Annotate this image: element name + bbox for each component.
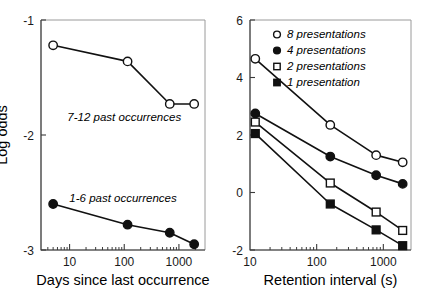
- axis-spines: [41, 20, 205, 250]
- series-3-point-2-filled-square-marker: [372, 226, 380, 234]
- legend-1-filled-circle-marker: [274, 47, 281, 54]
- left-chart-panel: -1-2-3101001000Days since last occurrenc…: [0, 0, 212, 293]
- legend-2-open-square-marker: [274, 63, 280, 69]
- series-3-point-1-filled-square-marker: [326, 200, 334, 208]
- legend-0-open-circle-marker: [274, 31, 281, 38]
- series-0-point-1-open-circle-marker: [123, 57, 131, 65]
- series-2-point-2-open-square-marker: [372, 208, 380, 216]
- legend-label-1: 4 presentations: [287, 44, 366, 56]
- y-tick-label-4: -2: [232, 244, 243, 258]
- x-axis-title: Days since last occurrence: [36, 272, 209, 288]
- plot-frame: [41, 20, 205, 250]
- x-tick-label-0: 10: [63, 255, 77, 269]
- series-3-point-3-filled-square-marker: [399, 242, 407, 250]
- x-axis-title: Retention interval (s): [264, 272, 398, 288]
- legend-label-0: 8 presentations: [287, 28, 366, 40]
- series-1: [49, 200, 198, 249]
- series-0-point-2-open-circle-marker: [372, 151, 380, 159]
- series-2: [251, 118, 406, 234]
- series-1-point-2-filled-circle-marker: [372, 171, 380, 179]
- series-0-point-1-open-circle-marker: [326, 121, 334, 129]
- series-1-point-0-filled-circle-marker: [251, 109, 259, 117]
- figure-container: -1-2-3101001000Days since last occurrenc…: [0, 0, 423, 293]
- series-1-point-0-filled-circle-marker: [49, 200, 57, 208]
- y-tick-label-2: -3: [23, 244, 34, 258]
- series-1-point-1-filled-circle-marker: [326, 152, 334, 160]
- legend-item-2: 2 presentations: [274, 60, 366, 72]
- series-3: [251, 130, 406, 250]
- series-0-point-0-open-circle-marker: [49, 41, 57, 49]
- series-2-point-0-open-square-marker: [251, 118, 259, 126]
- right-chart-panel: 6420-2101001000Retention interval (s)8 p…: [211, 0, 423, 293]
- series-2-point-3-open-square-marker: [399, 227, 407, 235]
- annotation-1: 1-6 past occurrences: [69, 192, 177, 204]
- y-tick-label-0: 6: [236, 14, 243, 28]
- legend-item-0: 8 presentations: [274, 28, 366, 40]
- y-tick-label-0: -1: [23, 14, 34, 28]
- series-1-point-2-filled-circle-marker: [166, 229, 174, 237]
- series-0: [49, 41, 198, 108]
- legend-label-2: 2 presentations: [286, 60, 366, 72]
- series-1-point-3-filled-circle-marker: [190, 240, 198, 248]
- series-2-point-1-open-square-marker: [326, 179, 334, 187]
- x-tick-label-2: 1000: [370, 255, 397, 269]
- legend-label-3: 1 presentation: [287, 76, 360, 88]
- series-line-0: [53, 45, 194, 104]
- x-tick-label-2: 1000: [166, 255, 193, 269]
- y-axis-title: Log odds: [0, 105, 10, 165]
- legend-item-1: 4 presentations: [274, 44, 366, 56]
- y-tick-label-1: -2: [23, 129, 34, 143]
- x-tick-label-1: 100: [114, 255, 134, 269]
- series-line-0: [255, 59, 402, 163]
- series-1-point-1-filled-circle-marker: [123, 221, 131, 229]
- series-0-point-3-open-circle-marker: [190, 100, 198, 108]
- y-tick-label-3: 0: [236, 186, 243, 200]
- y-tick-label-1: 4: [236, 71, 243, 85]
- series-0-point-2-open-circle-marker: [166, 100, 174, 108]
- x-tick-label-0: 10: [243, 255, 257, 269]
- legend-item-3: 1 presentation: [274, 76, 360, 88]
- y-tick-label-2: 2: [236, 129, 243, 143]
- series-0-point-0-open-circle-marker: [251, 55, 259, 63]
- series-1-point-3-filled-circle-marker: [398, 180, 406, 188]
- series-0-point-3-open-circle-marker: [398, 158, 406, 166]
- legend-3-filled-square-marker: [274, 79, 280, 85]
- x-tick-label-1: 100: [307, 255, 327, 269]
- series-3-point-0-filled-square-marker: [251, 130, 259, 138]
- annotation-0: 7-12 past occurrences: [67, 111, 181, 123]
